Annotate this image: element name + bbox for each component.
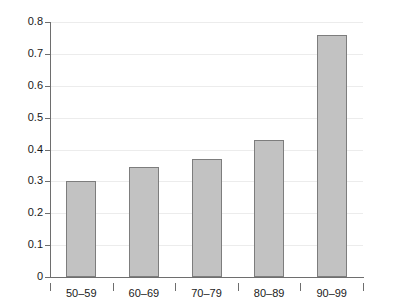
x-axis-tick bbox=[363, 283, 364, 291]
x-axis-line bbox=[50, 277, 364, 278]
y-axis-tick-label: 0.4 bbox=[0, 144, 43, 155]
x-axis-tick-label: 70–79 bbox=[175, 288, 238, 299]
bar bbox=[317, 35, 347, 277]
y-axis-tick-label: 0 bbox=[0, 271, 43, 282]
bar-chart: 00.10.20.30.40.50.60.70.8 50–5960–6970–7… bbox=[0, 0, 395, 306]
y-axis-tick bbox=[45, 150, 50, 151]
bar bbox=[192, 159, 222, 277]
y-axis-tick-label: 0.1 bbox=[0, 239, 43, 250]
y-axis-tick-label: 0.2 bbox=[0, 207, 43, 218]
x-axis-tick-label: 50–59 bbox=[50, 288, 113, 299]
y-axis-tick bbox=[45, 86, 50, 87]
y-axis-tick bbox=[45, 22, 50, 23]
x-axis-tick-label: 60–69 bbox=[113, 288, 176, 299]
gridline bbox=[50, 22, 363, 23]
y-axis-line bbox=[50, 22, 51, 278]
y-axis-tick-label: 0.5 bbox=[0, 112, 43, 123]
y-axis-tick bbox=[45, 181, 50, 182]
y-axis-tick-label: 0.3 bbox=[0, 175, 43, 186]
bar bbox=[254, 140, 284, 277]
x-axis-tick-label: 90–99 bbox=[300, 288, 363, 299]
plot-area bbox=[50, 22, 363, 277]
y-axis-tick bbox=[45, 54, 50, 55]
y-axis-tick-label: 0.6 bbox=[0, 80, 43, 91]
y-axis-tick-label: 0.8 bbox=[0, 16, 43, 27]
y-axis-tick bbox=[45, 245, 50, 246]
y-axis-tick bbox=[45, 213, 50, 214]
y-axis-tick-label: 0.7 bbox=[0, 48, 43, 59]
bar bbox=[66, 181, 96, 277]
y-axis-tick bbox=[45, 118, 50, 119]
bar bbox=[129, 167, 159, 277]
y-axis-tick bbox=[45, 277, 50, 278]
x-axis-tick-label: 80–89 bbox=[238, 288, 301, 299]
